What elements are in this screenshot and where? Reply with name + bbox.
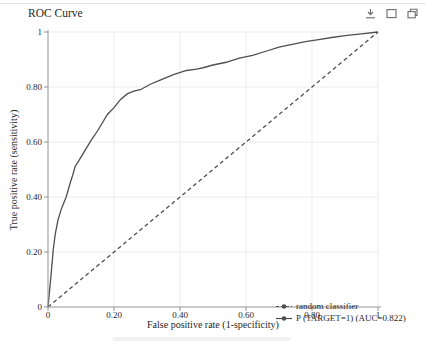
- series-line-dashed: [48, 32, 378, 307]
- legend-marker-dashed-line-dot-icon: [276, 303, 292, 310]
- y-tick-label: 0.60: [26, 137, 42, 147]
- y-tick-labels: 00.200.400.600.801: [0, 0, 42, 343]
- maximize-icon[interactable]: [385, 7, 398, 20]
- plot-svg: [48, 32, 378, 307]
- y-tick-label: 0.80: [26, 82, 42, 92]
- chart-toolbar: [364, 7, 419, 20]
- y-tick-label: 1: [38, 27, 43, 37]
- download-icon[interactable]: [364, 7, 377, 20]
- open-in-new-window-icon[interactable]: [406, 7, 419, 20]
- roc-curve-panel: ROC Curve random classifierP (TARGET=1) …: [0, 0, 426, 343]
- horizontal-scrollbar[interactable]: [113, 337, 290, 341]
- x-axis-title: False positive rate (1-specificity): [48, 319, 378, 330]
- y-tick-label: 0.20: [26, 247, 42, 257]
- y-tick-label: 0.40: [26, 192, 42, 202]
- y-axis-title: True positive rate (sensitivity): [8, 110, 19, 230]
- panel-top-separator: [0, 3, 426, 4]
- plot-area: random classifierP (TARGET=1) (AUC=0.822…: [48, 32, 378, 307]
